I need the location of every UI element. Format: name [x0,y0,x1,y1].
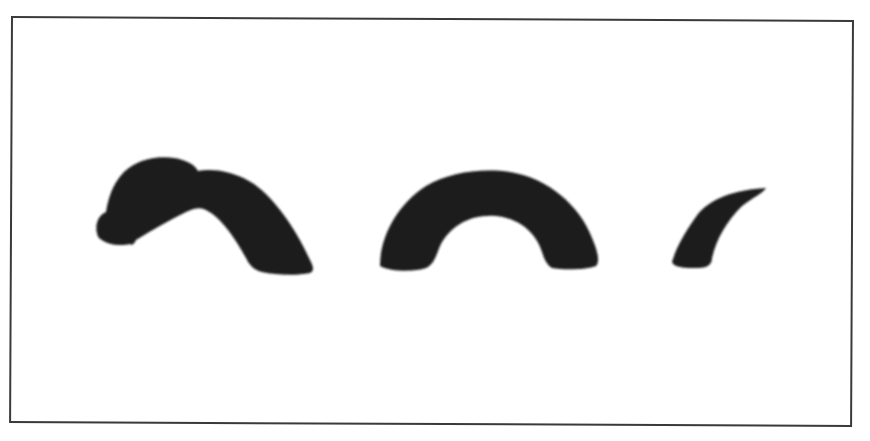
serpent-silhouette [0,0,870,441]
illustration-scene [0,0,870,441]
serpent-head-icon [96,157,313,275]
serpent-tail-icon [672,188,766,268]
serpent-middle-hump-icon [380,171,598,271]
